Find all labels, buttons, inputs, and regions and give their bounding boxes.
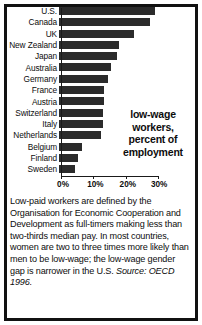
category-label: France (0, 86, 59, 95)
x-axis-tick (126, 176, 127, 179)
category-label: Netherlands (0, 131, 59, 140)
bar-value (59, 97, 104, 105)
category-label: Austria (0, 98, 59, 107)
bar-row: Germany (0, 74, 194, 85)
category-label: Switzerland (0, 109, 59, 118)
bar-value (59, 120, 103, 128)
x-axis-tick-label: 30% (151, 180, 167, 189)
category-label: Finland (0, 154, 59, 163)
bar-value (59, 18, 150, 26)
category-label: Japan (0, 52, 59, 61)
bar-chart-plot: U.S. Canada UK New Zealand Japan (0, 6, 194, 196)
x-axis-tick (61, 176, 62, 179)
figure-caption: Low-paid workers are defined by the Orga… (10, 196, 192, 289)
bar-row: Austria (0, 96, 194, 107)
bar-row: Australia (0, 62, 194, 73)
annotation-line-3: percent of (112, 133, 194, 146)
bar-track (59, 85, 194, 96)
category-label: Belgium (0, 143, 59, 152)
bar-row: UK (0, 29, 194, 40)
bar-track (59, 29, 194, 40)
bar-track (59, 17, 194, 28)
bar-value (59, 86, 104, 94)
category-label: Germany (0, 75, 59, 84)
bar-track (59, 62, 194, 73)
bar-value (59, 30, 134, 38)
annotation-line-1: low-wage (112, 108, 194, 121)
annotation-line-4: employment (112, 146, 194, 159)
bar-track (59, 96, 194, 107)
bar-row: Japan (0, 51, 194, 62)
y-axis-line (61, 8, 62, 176)
bar-row: Canada (0, 17, 194, 28)
bar-track (59, 6, 194, 17)
bar-row: France (0, 85, 194, 96)
bar-track (59, 40, 194, 51)
category-label: Sweden (0, 165, 59, 174)
bar-row: Sweden (0, 164, 194, 175)
bar-row: U.S. (0, 6, 194, 17)
bar-value (59, 52, 117, 60)
category-label: New Zealand (0, 41, 59, 50)
bar-value (59, 41, 119, 49)
bar-track (59, 51, 194, 62)
bar-value (59, 75, 108, 83)
x-axis-line (61, 176, 159, 177)
caption-body: Low-paid workers are defined by the Orga… (10, 196, 189, 276)
x-axis-tick-label: 10% (87, 180, 103, 189)
category-label: UK (0, 30, 59, 39)
category-label: U.S. (0, 7, 59, 16)
bar-track (59, 74, 194, 85)
bar-value (59, 109, 103, 117)
annotation-line-2: workers, (112, 121, 194, 134)
x-axis-tick (93, 176, 94, 179)
bar-value (59, 7, 155, 15)
category-label: Australia (0, 64, 59, 73)
chart-annotation: low-wage workers, percent of employment (112, 108, 194, 158)
bar-track (59, 164, 194, 175)
chart-figure: U.S. Canada UK New Zealand Japan (0, 0, 202, 325)
bar-row: New Zealand (0, 40, 194, 51)
x-axis-tick-label: 20% (120, 180, 136, 189)
bar-value (59, 63, 111, 71)
category-label: Canada (0, 18, 59, 27)
bar-value (59, 143, 82, 151)
x-axis-tick (158, 176, 159, 179)
x-axis-tick-label: 0% (57, 180, 69, 189)
category-label: Italy (0, 120, 59, 129)
bar-value (59, 131, 101, 139)
